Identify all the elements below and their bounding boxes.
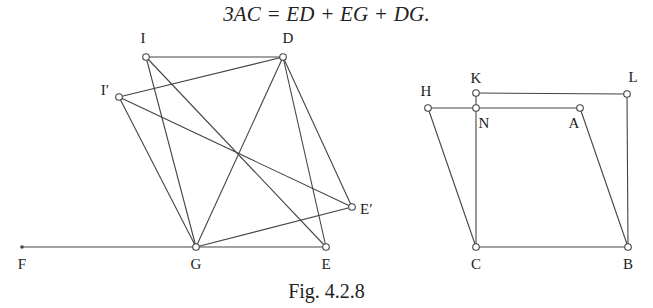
- point-n: [473, 105, 480, 112]
- label-d: D: [283, 30, 294, 46]
- geometry-figure: IDI′GEE′FKLHNACB: [0, 0, 653, 308]
- label-b: B: [623, 256, 633, 272]
- figure-caption: Fig. 4.2.8: [0, 280, 653, 303]
- label-k: K: [471, 70, 482, 86]
- point-e: [323, 244, 330, 251]
- label-g: G: [191, 256, 202, 272]
- segment-d-g: [196, 57, 283, 247]
- segment-i2-d: [119, 57, 283, 97]
- point-l: [624, 91, 631, 98]
- label-i2: I′: [101, 82, 109, 98]
- label-e: E: [321, 256, 330, 272]
- label-n: N: [479, 115, 490, 131]
- point-i: [143, 54, 150, 61]
- segment-i-g: [146, 57, 196, 247]
- point-f: [20, 245, 24, 249]
- label-e2: E′: [360, 201, 372, 217]
- label-i: I: [141, 30, 146, 46]
- point-i2: [116, 94, 123, 101]
- segment-d-e: [283, 57, 326, 247]
- label-f: F: [18, 256, 26, 272]
- segment-l-b: [627, 94, 628, 247]
- label-c: C: [471, 256, 481, 272]
- point-g: [193, 244, 200, 251]
- segment-i2-g: [119, 97, 196, 247]
- label-l: L: [628, 69, 637, 85]
- segment-k-l: [476, 93, 627, 94]
- segment-a-b: [580, 108, 628, 247]
- point-h: [425, 105, 432, 112]
- label-a: A: [569, 115, 580, 131]
- point-a: [577, 105, 584, 112]
- label-h: H: [421, 83, 432, 99]
- segment-g-e2: [196, 207, 352, 247]
- point-e2: [349, 204, 356, 211]
- segment-h-c: [428, 108, 476, 247]
- point-d: [280, 54, 287, 61]
- point-b: [625, 244, 632, 251]
- point-c: [473, 244, 480, 251]
- segment-d-e2: [283, 57, 352, 207]
- segment-i2-e2: [119, 97, 352, 207]
- point-k: [473, 90, 480, 97]
